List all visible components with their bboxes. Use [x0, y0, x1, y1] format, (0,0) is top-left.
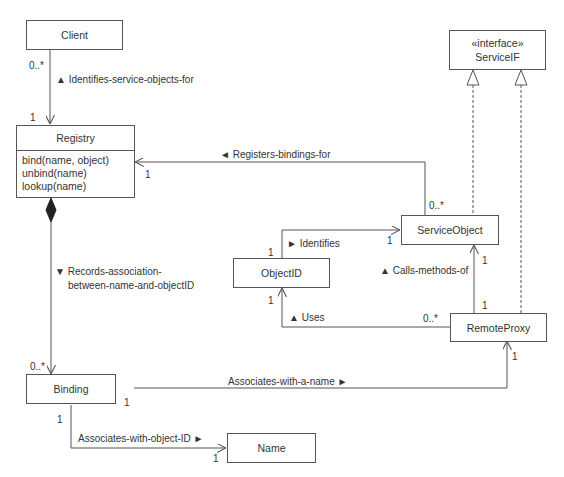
- multiplicity: 1: [512, 352, 518, 362]
- operation: unbind(name): [22, 167, 129, 180]
- assoc-label: ◄ Registers-bindings-for: [220, 149, 331, 161]
- class-name-box[interactable]: Name: [227, 433, 316, 463]
- assoc-label: ▲ Calls-methods-of: [380, 265, 468, 277]
- class-name: Registry: [17, 126, 134, 151]
- class-name: Client: [27, 21, 122, 49]
- multiplicity: 0..*: [29, 61, 44, 71]
- multiplicity: 1: [145, 170, 151, 180]
- assoc-label: Associates-with-object-ID ►: [78, 433, 204, 445]
- operation: bind(name, object): [22, 154, 129, 167]
- assoc-label: Associates-with-a-name ►: [228, 376, 347, 388]
- assoc-label: ▼ Records-association-: [55, 266, 162, 278]
- class-client[interactable]: Client: [26, 20, 123, 50]
- multiplicity: 1: [387, 236, 393, 246]
- multiplicity: 1: [57, 415, 63, 425]
- class-name: Binding: [27, 375, 115, 403]
- class-remoteproxy[interactable]: RemoteProxy: [450, 313, 547, 342]
- class-registry[interactable]: Registry bind(name, object) unbind(name)…: [16, 125, 135, 198]
- stereotype: «interface»: [472, 36, 524, 50]
- realization-triangle-icon: [467, 70, 479, 85]
- multiplicity: 0..*: [429, 201, 444, 211]
- assoc-label: ▲ Identifies-service-objects-for: [56, 74, 194, 86]
- multiplicity: 1: [268, 296, 274, 306]
- class-name: ObjectID: [234, 259, 329, 287]
- composition-diamond-icon: [46, 198, 56, 222]
- class-name: ServiceIF: [475, 50, 519, 64]
- assoc-label: ▲ Uses: [289, 312, 324, 324]
- multiplicity: 0..*: [423, 314, 438, 324]
- operation: lookup(name): [22, 180, 129, 193]
- class-name: RemoteProxy: [451, 314, 546, 341]
- class-binding[interactable]: Binding: [26, 374, 116, 404]
- multiplicity: 1: [124, 398, 130, 408]
- class-name: ServiceObject: [402, 216, 498, 244]
- serviceobject-registry-association: [135, 162, 425, 215]
- multiplicity: 1: [482, 256, 488, 266]
- multiplicity: 1: [213, 454, 219, 464]
- assoc-label: ► Identifies: [287, 238, 340, 250]
- interface-serviceif[interactable]: «interface» ServiceIF: [449, 30, 546, 70]
- multiplicity: 1: [268, 248, 274, 258]
- multiplicity: 1: [30, 113, 36, 123]
- multiplicity: 0..*: [30, 362, 45, 372]
- assoc-label: between-name-and-objectID: [68, 280, 194, 292]
- class-name: Name: [228, 434, 315, 462]
- class-serviceobject[interactable]: ServiceObject: [401, 215, 499, 245]
- realization-triangle-icon: [515, 70, 527, 85]
- multiplicity: 1: [482, 301, 488, 311]
- class-objectid[interactable]: ObjectID: [233, 258, 330, 288]
